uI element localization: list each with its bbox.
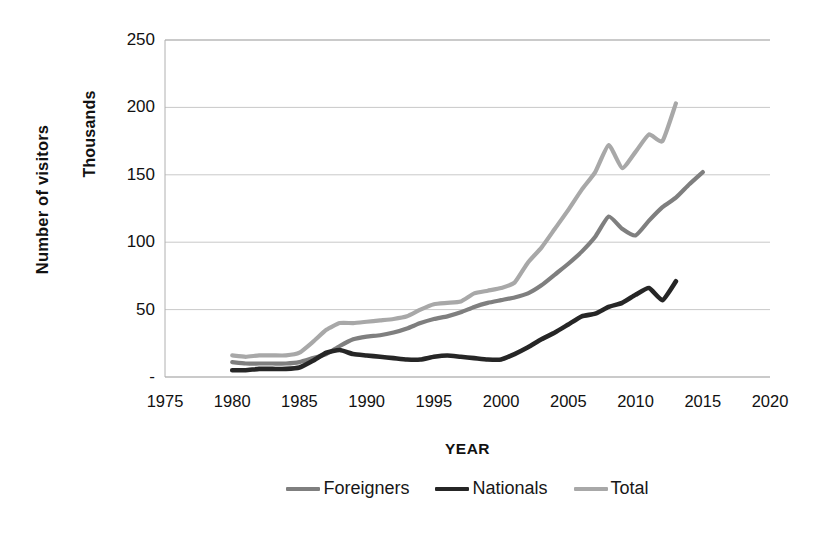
x-tick-label: 2020 (735, 392, 805, 411)
x-tick-label: 1995 (399, 392, 469, 411)
x-tick-label: 1975 (130, 392, 200, 411)
x-tick-label: 2015 (668, 392, 738, 411)
chart-legend: ForeignersNationalsTotal (165, 478, 770, 499)
visitors-line-chart: Number of visitors Thousands -5010015020… (0, 0, 828, 542)
legend-label: Total (611, 478, 649, 499)
legend-label: Nationals (472, 478, 547, 499)
x-axis-tick-labels: 1975198019851990199520002005201020152020 (0, 0, 828, 542)
legend-item-foreigners[interactable]: Foreigners (286, 478, 409, 499)
legend-item-total[interactable]: Total (574, 478, 649, 499)
x-axis-title: YEAR (165, 440, 770, 458)
x-tick-label: 2005 (533, 392, 603, 411)
legend-label: Foreigners (323, 478, 409, 499)
legend-swatch-icon (574, 487, 608, 491)
legend-swatch-icon (435, 487, 469, 491)
x-tick-label: 2000 (466, 392, 536, 411)
x-tick-label: 1990 (332, 392, 402, 411)
x-tick-label: 1980 (197, 392, 267, 411)
legend-item-nationals[interactable]: Nationals (435, 478, 547, 499)
x-tick-label: 2010 (601, 392, 671, 411)
legend-swatch-icon (286, 487, 320, 491)
x-tick-label: 1985 (264, 392, 334, 411)
